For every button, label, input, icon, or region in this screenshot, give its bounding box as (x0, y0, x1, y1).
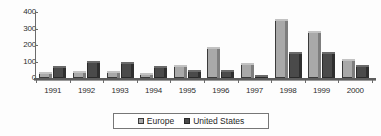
y-tick-label: 200 (6, 41, 36, 49)
bar-europe-1998 (275, 19, 288, 78)
bar-top-face (342, 59, 355, 61)
x-axis-label-1997: 1997 (238, 86, 270, 95)
bar-top-face (322, 52, 335, 54)
bar-side-face (332, 52, 335, 78)
x-axis-line-shadow (34, 80, 376, 81)
x-axis-label-1993: 1993 (104, 86, 136, 95)
legend-entry-united-states: United States (184, 117, 244, 126)
bar-united-states-1993 (121, 62, 134, 79)
x-tick-mark (238, 80, 239, 83)
x-tick-mark (103, 80, 104, 83)
y-tick-label: 100 (6, 58, 36, 66)
legend-entry-europe: Europe (138, 117, 174, 126)
bar-top-face (207, 47, 220, 49)
x-tick-mark (271, 80, 272, 83)
plot-area (36, 12, 372, 78)
bar-europe-1996 (207, 47, 220, 78)
x-tick-mark (70, 80, 71, 83)
bar-top-face (356, 65, 369, 67)
bar-top-face (87, 61, 100, 63)
x-axis-label-1991: 1991 (37, 86, 69, 95)
x-axis-label-1995: 1995 (171, 86, 203, 95)
bar-europe-1994 (140, 73, 153, 78)
y-tick-200: 200 (0, 41, 36, 49)
x-axis-label-1994: 1994 (138, 86, 170, 95)
bar-side-face (97, 61, 100, 78)
bar-top-face (53, 66, 66, 68)
bar-united-states-1994 (154, 66, 167, 78)
y-tick-label: 0 (6, 74, 36, 82)
x-axis-label-1992: 1992 (70, 86, 102, 95)
bar-united-states-1997 (255, 75, 268, 78)
bar-united-states-1999 (322, 52, 335, 78)
bar-europe-1997 (241, 63, 254, 78)
bar-top-face (107, 71, 120, 73)
legend-label: United States (193, 117, 244, 126)
y-tick-0: 0 (0, 74, 36, 82)
x-axis-label-1999: 1999 (306, 86, 338, 95)
bar-side-face (251, 63, 254, 78)
bar-top-face (221, 70, 234, 72)
x-axis-label-1998: 1998 (272, 86, 304, 95)
y-tick-300: 300 (0, 25, 36, 33)
x-tick-mark (170, 80, 171, 83)
bar-top-face (289, 52, 302, 54)
bar-top-face (73, 71, 86, 73)
bar-side-face (217, 47, 220, 78)
x-tick-mark (338, 80, 339, 83)
x-tick-mark (204, 80, 205, 83)
bar-side-face (131, 62, 134, 79)
legend-swatch-icon (184, 118, 190, 124)
bar-united-states-1991 (53, 66, 66, 78)
bar-europe-1992 (73, 71, 86, 78)
x-axis-label-1996: 1996 (205, 86, 237, 95)
y-tick-400: 400 (0, 8, 36, 16)
legend-swatch-icon (138, 118, 144, 124)
bar-top-face (308, 31, 321, 33)
bar-europe-1995 (174, 65, 187, 78)
bar-top-face (174, 65, 187, 67)
bar-europe-1999 (308, 31, 321, 78)
bar-side-face (318, 31, 321, 78)
bar-top-face (241, 63, 254, 65)
x-tick-mark (305, 80, 306, 83)
x-tick-mark (36, 80, 37, 83)
x-axis-label-2000: 2000 (339, 86, 371, 95)
y-tick-label: 300 (6, 25, 36, 33)
bar-top-face (140, 73, 153, 75)
bar-united-states-2000 (356, 65, 369, 78)
chart-legend: EuropeUnited States (113, 113, 269, 129)
bar-side-face (285, 19, 288, 78)
bar-europe-1993 (107, 71, 120, 78)
bar-top-face (39, 72, 52, 74)
bar-top-face (121, 62, 134, 64)
y-tick-100: 100 (0, 58, 36, 66)
bar-side-face (299, 52, 302, 78)
bar-europe-2000 (342, 59, 355, 78)
bar-top-face (188, 70, 201, 72)
bar-united-states-1992 (87, 61, 100, 78)
bar-united-states-1995 (188, 70, 201, 78)
y-tick-label: 400 (6, 8, 36, 16)
x-tick-mark (137, 80, 138, 83)
x-tick-mark (372, 80, 373, 83)
bar-side-face (352, 59, 355, 78)
bar-top-face (255, 75, 268, 77)
bar-united-states-1998 (289, 52, 302, 78)
legend-label: Europe (147, 117, 174, 126)
bar-united-states-1996 (221, 70, 234, 78)
bar-europe-1991 (39, 72, 52, 78)
bar-top-face (154, 66, 167, 68)
bar-top-face (275, 19, 288, 21)
bar-chart: 0100200300400 19911992199319941995199619… (0, 0, 381, 136)
